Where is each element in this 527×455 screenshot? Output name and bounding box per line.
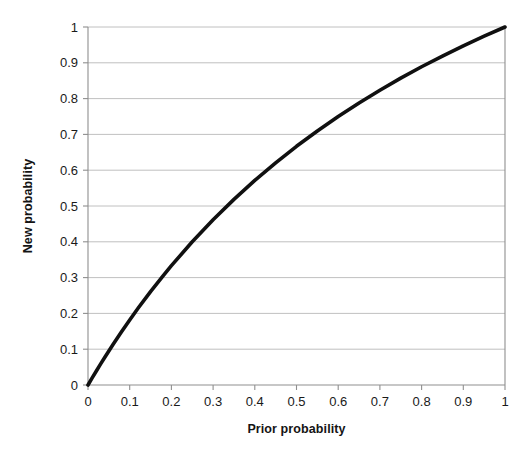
- svg-text:0.2: 0.2: [162, 394, 180, 409]
- svg-text:0.9: 0.9: [454, 394, 472, 409]
- svg-text:0.7: 0.7: [60, 127, 78, 142]
- svg-text:0.5: 0.5: [60, 199, 78, 214]
- svg-text:0.1: 0.1: [60, 342, 78, 357]
- svg-text:1: 1: [501, 394, 508, 409]
- plot-canvas: 00.10.20.30.40.50.60.70.80.91 00.10.20.3…: [0, 0, 527, 455]
- svg-text:0.7: 0.7: [371, 394, 389, 409]
- svg-text:0.8: 0.8: [413, 394, 431, 409]
- x-tick-labels: 00.10.20.30.40.50.60.70.80.91: [84, 394, 508, 409]
- svg-text:0.3: 0.3: [60, 270, 78, 285]
- svg-text:0.1: 0.1: [121, 394, 139, 409]
- svg-text:1: 1: [71, 20, 78, 35]
- y-tick-labels: 00.10.20.30.40.50.60.70.80.91: [60, 20, 78, 393]
- svg-text:0.8: 0.8: [60, 91, 78, 106]
- y-axis-ticks: [83, 27, 88, 385]
- svg-text:0.5: 0.5: [287, 394, 305, 409]
- svg-text:0.2: 0.2: [60, 306, 78, 321]
- svg-text:0.4: 0.4: [60, 234, 78, 249]
- probability-update-chart: 00.10.20.30.40.50.60.70.80.91 00.10.20.3…: [0, 0, 527, 455]
- svg-text:0: 0: [84, 394, 91, 409]
- svg-text:0.3: 0.3: [204, 394, 222, 409]
- svg-text:0.6: 0.6: [60, 163, 78, 178]
- svg-text:0.6: 0.6: [329, 394, 347, 409]
- svg-text:0.4: 0.4: [246, 394, 264, 409]
- svg-text:0.9: 0.9: [60, 55, 78, 70]
- svg-text:0: 0: [71, 378, 78, 393]
- x-axis-ticks: [88, 385, 505, 390]
- gridlines: [88, 27, 505, 349]
